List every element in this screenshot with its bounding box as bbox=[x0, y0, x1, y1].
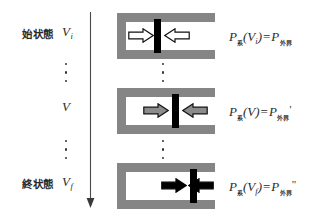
ellipsis-left-lower bbox=[64, 140, 68, 159]
p-system-symbol-final: P bbox=[229, 179, 237, 194]
ellipsis-dot bbox=[65, 80, 67, 82]
piston-intermediate bbox=[172, 94, 179, 128]
p-surroundings-symbol-initial: P bbox=[271, 29, 279, 44]
external-pressure-arrow-left-final bbox=[188, 178, 214, 193]
ellipsis-center-upper bbox=[161, 63, 165, 82]
ellipsis-left-upper bbox=[64, 63, 68, 82]
arg-subscript-initial: i bbox=[255, 36, 257, 46]
prime-intermediate: ' bbox=[289, 103, 291, 115]
cylinder-wall-top bbox=[117, 163, 215, 172]
volume-label-final: Vf bbox=[62, 174, 72, 190]
ellipsis-dot bbox=[162, 157, 164, 159]
volume-symbol-intermediate: V bbox=[62, 99, 70, 114]
cylinder-wall-bottom bbox=[117, 125, 215, 134]
arg-subscript-final: f bbox=[255, 186, 257, 196]
gas-pressure-arrow-right-final bbox=[161, 178, 187, 193]
downward-process-arrow bbox=[86, 12, 95, 208]
arg-close-intermediate: ) bbox=[255, 104, 259, 119]
ellipsis-dot bbox=[162, 63, 164, 65]
volume-symbol-initial: V bbox=[62, 24, 70, 39]
equals-sign-initial: = bbox=[263, 29, 270, 44]
state-label-initial: 始状態 bbox=[22, 26, 54, 41]
p-system-subscript-intermediate: 系 bbox=[237, 114, 243, 121]
ellipsis-dot bbox=[162, 71, 164, 73]
gas-pressure-arrow-right-intermediate bbox=[143, 103, 169, 118]
volume-label-intermediate: V bbox=[62, 99, 70, 115]
state-label-final: 終状態 bbox=[22, 176, 54, 191]
p-surroundings-subscript-initial: 外界 bbox=[280, 39, 292, 46]
figure-canvas: 始状態 Vi P系(Vi)=P外界 V bbox=[0, 0, 326, 219]
p-surroundings-symbol-final: P bbox=[271, 179, 279, 194]
ellipsis-dot bbox=[162, 80, 164, 82]
prime-final: " bbox=[292, 178, 297, 190]
volume-symbol-final: V bbox=[62, 174, 70, 189]
cylinder-wall-bottom bbox=[117, 50, 215, 59]
arg-close-initial: ) bbox=[258, 29, 262, 44]
p-system-subscript-initial: 系 bbox=[237, 39, 243, 46]
cylinder-intermediate bbox=[117, 88, 215, 134]
volume-subscript-final: f bbox=[70, 181, 72, 191]
equals-sign-final: = bbox=[263, 179, 270, 194]
equation-initial: P系(Vi)=P外界 bbox=[229, 30, 291, 43]
gas-pressure-arrow-right-initial bbox=[128, 28, 154, 43]
ellipsis-center-lower bbox=[161, 140, 165, 159]
ellipsis-dot bbox=[65, 148, 67, 150]
cylinder-wall-bottom bbox=[117, 200, 215, 209]
ellipsis-dot bbox=[162, 148, 164, 150]
external-pressure-arrow-left-initial bbox=[164, 28, 190, 43]
p-surroundings-subscript-final: 外界 bbox=[280, 189, 292, 196]
equation-intermediate: P系(V)=P外界' bbox=[229, 105, 291, 118]
ellipsis-dot bbox=[65, 157, 67, 159]
ellipsis-dot bbox=[65, 140, 67, 142]
volume-label-initial: Vi bbox=[62, 24, 72, 40]
arg-close-final: ) bbox=[258, 179, 262, 194]
p-system-subscript-final: 系 bbox=[237, 189, 243, 196]
piston-initial bbox=[154, 19, 161, 53]
equation-final: P系(Vf)=P外界" bbox=[229, 180, 296, 193]
p-surroundings-symbol-intermediate: P bbox=[269, 104, 277, 119]
cylinder-initial bbox=[117, 13, 215, 59]
cylinder-final bbox=[117, 163, 215, 209]
volume-subscript-initial: i bbox=[70, 31, 72, 41]
ellipsis-dot bbox=[65, 71, 67, 73]
cylinder-wall-top bbox=[117, 13, 215, 22]
p-system-symbol-initial: P bbox=[229, 29, 237, 44]
ellipsis-dot bbox=[65, 63, 67, 65]
p-system-symbol-intermediate: P bbox=[229, 104, 237, 119]
equals-sign-intermediate: = bbox=[261, 104, 268, 119]
external-pressure-arrow-left-intermediate bbox=[182, 103, 208, 118]
cylinder-wall-top bbox=[117, 88, 215, 97]
p-surroundings-subscript-intermediate: 外界 bbox=[277, 114, 289, 121]
ellipsis-dot bbox=[162, 140, 164, 142]
